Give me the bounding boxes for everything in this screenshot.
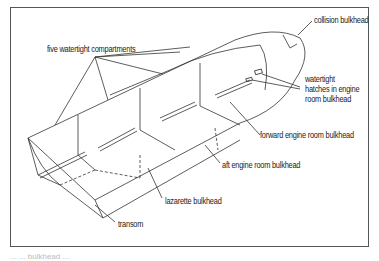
label-lazarette-bulkhead: lazarette bulkhead bbox=[165, 196, 222, 206]
label-aft-engine-bulkhead: aft engine room bulkhead bbox=[222, 160, 300, 170]
label-hatches-1: watertight bbox=[305, 74, 335, 84]
label-collision-bulkhead: collision bulkhead bbox=[314, 15, 368, 25]
label-five-compartments: five watertight compartments bbox=[47, 44, 135, 54]
figure-caption: ... ... bulkhead ... bbox=[10, 252, 69, 261]
label-hatches-3: room bulkhead bbox=[305, 94, 351, 104]
label-hatches-2: hatches in engine bbox=[305, 84, 359, 94]
label-transom: transom bbox=[118, 219, 143, 229]
label-forward-engine-bulkhead: forward engine room bulkhead bbox=[260, 130, 354, 140]
